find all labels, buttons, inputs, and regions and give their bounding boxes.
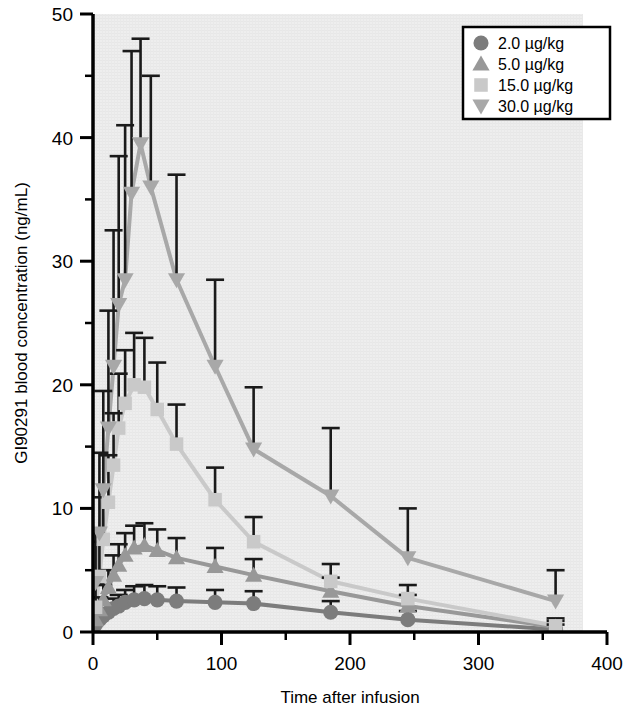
marker-square — [474, 78, 488, 92]
marker-square — [208, 493, 222, 507]
marker-circle — [400, 612, 415, 627]
x-tick-label: 300 — [463, 653, 495, 674]
y-tick-label: 0 — [62, 622, 73, 643]
marker-square — [118, 397, 132, 411]
x-tick-label: 200 — [334, 653, 366, 674]
marker-square — [89, 601, 103, 615]
chart-figure: 010203040500100200300400 Time after infu… — [0, 0, 630, 715]
marker-square — [170, 437, 184, 451]
legend-label: 5.0 µg/kg — [498, 56, 564, 73]
x-tick-label: 100 — [206, 653, 238, 674]
line-chart: 010203040500100200300400 Time after infu… — [0, 0, 630, 715]
marker-square — [401, 592, 415, 606]
marker-circle — [169, 594, 184, 609]
marker-square — [107, 458, 121, 472]
x-tick-label: 0 — [88, 653, 99, 674]
y-tick-label: 20 — [52, 375, 73, 396]
legend-label: 15.0 µg/kg — [498, 77, 573, 94]
legend-label: 30.0 µg/kg — [498, 98, 573, 115]
marker-circle — [137, 591, 152, 606]
y-axis-ticks — [80, 14, 93, 632]
marker-square — [138, 381, 152, 395]
y-tick-label: 40 — [52, 128, 73, 149]
marker-square — [150, 403, 164, 417]
y-tick-label: 10 — [52, 498, 73, 519]
marker-circle — [246, 596, 261, 611]
marker-square — [247, 535, 261, 549]
x-tick-label: 400 — [591, 653, 623, 674]
x-axis-title: Time after infusion — [280, 688, 419, 707]
y-tick-label: 50 — [52, 4, 73, 25]
marker-circle — [473, 35, 488, 50]
marker-circle — [150, 592, 165, 607]
marker-circle — [323, 605, 338, 620]
chart-legend: 2.0 µg/kg5.0 µg/kg15.0 µg/kg30.0 µg/kg — [463, 27, 610, 119]
x-axis-ticks — [93, 632, 607, 645]
y-tick-label: 30 — [52, 251, 73, 272]
marker-square — [324, 575, 338, 589]
marker-circle — [208, 595, 223, 610]
legend-label: 2.0 µg/kg — [498, 35, 564, 52]
y-axis-title: GI90291 blood concentration (ng/mL) — [12, 182, 31, 464]
